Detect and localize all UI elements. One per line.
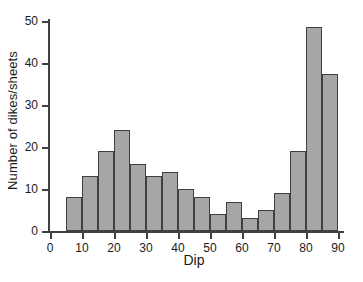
histogram-figure: Number of dikes/sheets 01020304050 01020… (0, 0, 363, 282)
histogram-bar (322, 74, 338, 232)
x-axis-tick (306, 233, 308, 239)
histogram-bar (306, 27, 322, 231)
x-axis-line (48, 231, 344, 233)
histogram-bar (130, 164, 146, 231)
y-axis-tick-label: 10 (0, 182, 38, 196)
y-axis-tick (42, 231, 48, 233)
x-axis-tick (50, 233, 52, 239)
x-axis-tick (210, 233, 212, 239)
histogram-bar (194, 197, 210, 231)
y-axis-tick-label: 30 (0, 98, 38, 112)
y-axis-tick-label: 40 (0, 56, 38, 70)
x-axis-tick (274, 233, 276, 239)
x-axis-label: Dip (50, 252, 338, 268)
y-axis-tick (42, 147, 48, 149)
histogram-bar (178, 189, 194, 231)
histogram-bar (210, 214, 226, 231)
histogram-bar (82, 176, 98, 231)
x-axis-tick (338, 233, 340, 239)
histogram-bar (98, 151, 114, 231)
histogram-bar (274, 193, 290, 231)
x-axis-tick (178, 233, 180, 239)
histogram-bar (258, 210, 274, 231)
y-axis-label: Number of dikes/sheets (0, 0, 24, 240)
y-axis-label-text: Number of dikes/sheets (5, 51, 20, 190)
x-axis-tick (114, 233, 116, 239)
x-axis-tick (242, 233, 244, 239)
plot-area (50, 21, 338, 231)
y-axis-tick (42, 189, 48, 191)
histogram-bar (242, 218, 258, 231)
y-axis-tick (42, 105, 48, 107)
y-axis-tick (42, 63, 48, 65)
histogram-bar (66, 197, 82, 231)
histogram-bar (146, 176, 162, 231)
histogram-bar (162, 172, 178, 231)
histogram-bar (114, 130, 130, 231)
x-axis-tick (146, 233, 148, 239)
histogram-bar (290, 151, 306, 231)
y-axis-tick (42, 21, 48, 23)
x-axis-tick (82, 233, 84, 239)
y-axis-tick-label: 20 (0, 140, 38, 154)
histogram-bar (226, 202, 242, 231)
y-axis-tick-label: 0 (0, 224, 38, 238)
y-axis-tick-label: 50 (0, 14, 38, 28)
